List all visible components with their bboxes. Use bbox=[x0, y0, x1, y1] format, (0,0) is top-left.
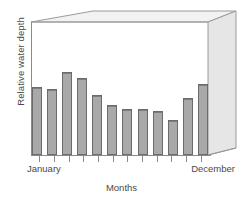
x-axis-first-label: January bbox=[27, 163, 61, 174]
frame-right-wall bbox=[208, 11, 236, 155]
bar bbox=[62, 72, 72, 155]
x-axis-tick bbox=[157, 156, 158, 162]
bar bbox=[168, 120, 178, 155]
bar bbox=[138, 109, 148, 155]
bar bbox=[153, 111, 163, 155]
x-axis-tick bbox=[39, 156, 40, 162]
y-axis-title: Relative water depth bbox=[15, 2, 26, 122]
x-axis-tick bbox=[142, 156, 143, 162]
bar bbox=[32, 87, 42, 155]
bar-chart: Relative water depth January December Mo… bbox=[0, 0, 243, 206]
x-axis-last-label: December bbox=[191, 163, 235, 174]
bar bbox=[107, 105, 117, 155]
x-axis-title: Months bbox=[0, 182, 243, 193]
bar bbox=[47, 89, 57, 155]
x-axis-tick bbox=[201, 156, 202, 162]
x-axis-tick bbox=[69, 156, 70, 162]
x-axis-tick bbox=[83, 156, 84, 162]
x-axis-tick bbox=[127, 156, 128, 162]
x-axis-tick bbox=[186, 156, 187, 162]
bar bbox=[183, 98, 193, 155]
bar bbox=[198, 84, 208, 155]
plot-area bbox=[32, 48, 208, 155]
bar bbox=[77, 78, 87, 155]
bar bbox=[92, 95, 102, 155]
x-axis-tick bbox=[171, 156, 172, 162]
x-axis-ticks bbox=[32, 156, 208, 162]
x-axis-tick bbox=[113, 156, 114, 162]
x-axis-tick bbox=[54, 156, 55, 162]
frame-top-panel bbox=[31, 11, 236, 22]
x-axis-tick bbox=[98, 156, 99, 162]
bar bbox=[122, 109, 132, 155]
